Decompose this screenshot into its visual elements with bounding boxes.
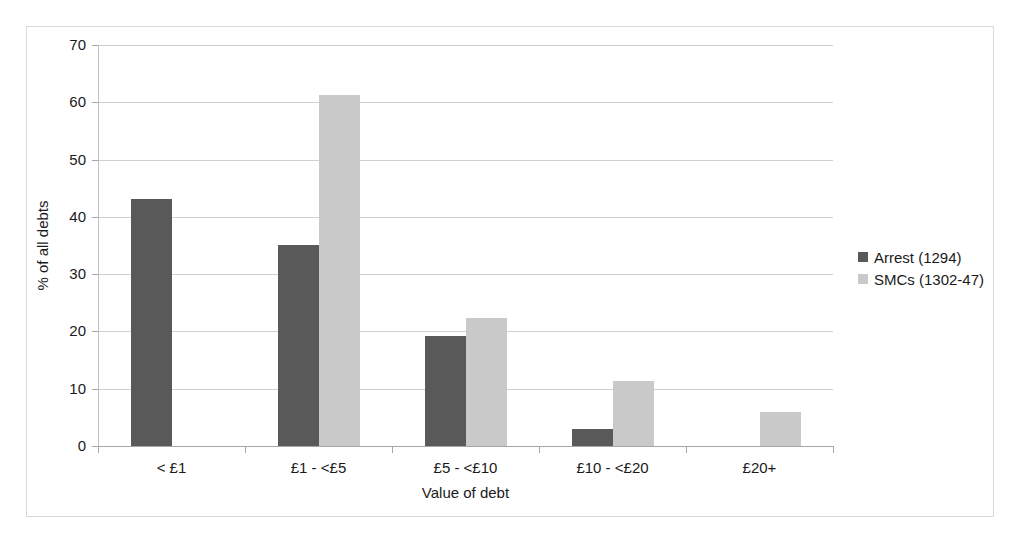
y-tick-mark — [92, 217, 98, 218]
x-axis-line — [98, 446, 834, 447]
y-tick-label: 60 — [50, 94, 86, 109]
legend: Arrest (1294)SMCs (1302-47) — [858, 246, 984, 290]
bar — [425, 336, 466, 446]
y-tick-label-wrap: 0 — [44, 438, 86, 453]
bar — [131, 199, 172, 446]
y-tick-mark — [92, 389, 98, 390]
legend-item: Arrest (1294) — [858, 246, 984, 268]
y-tick-mark — [92, 274, 98, 275]
y-tick-mark — [92, 102, 98, 103]
gridline — [98, 102, 833, 103]
gridline — [98, 160, 833, 161]
x-tick-mark — [833, 447, 834, 453]
y-tick-label: 30 — [50, 266, 86, 281]
bar — [613, 381, 654, 446]
legend-swatch-icon — [858, 274, 868, 284]
y-tick-label-wrap: 20 — [44, 323, 86, 338]
y-tick-mark — [92, 45, 98, 46]
bar — [760, 412, 801, 446]
plot-area — [98, 45, 833, 446]
bar — [319, 95, 360, 446]
x-tick-label: < £1 — [98, 459, 245, 476]
y-tick-label-wrap: 70 — [44, 37, 86, 52]
x-axis-title: Value of debt — [98, 484, 833, 501]
y-axis-title: % of all debts — [35, 186, 50, 306]
y-tick-label: 50 — [50, 152, 86, 167]
y-tick-label-wrap: 60 — [44, 94, 86, 109]
gridline — [98, 45, 833, 46]
x-tick-mark — [686, 447, 687, 453]
gridline — [98, 274, 833, 275]
gridline — [98, 217, 833, 218]
y-tick-mark — [92, 160, 98, 161]
chart-container: 010203040506070 % of all debts < £1£1 - … — [0, 0, 1010, 537]
y-tick-label: 20 — [50, 323, 86, 338]
x-tick-label: £20+ — [686, 459, 833, 476]
legend-swatch-icon — [858, 252, 868, 262]
x-tick-mark — [245, 447, 246, 453]
y-tick-label: 40 — [50, 209, 86, 224]
bar — [572, 429, 613, 446]
x-tick-mark — [539, 447, 540, 453]
y-tick-label-wrap: 50 — [44, 152, 86, 167]
x-tick-mark — [392, 447, 393, 453]
bar — [278, 245, 319, 446]
y-tick-label: 0 — [50, 438, 86, 453]
x-tick-mark — [98, 447, 99, 453]
x-tick-label: £5 - <£10 — [392, 459, 539, 476]
y-tick-label-wrap: 10 — [44, 381, 86, 396]
y-tick-mark — [92, 331, 98, 332]
y-tick-label: 70 — [50, 37, 86, 52]
legend-label: SMCs (1302-47) — [874, 272, 984, 287]
y-tick-label: 10 — [50, 381, 86, 396]
bar — [466, 318, 507, 446]
x-tick-label: £1 - <£5 — [245, 459, 392, 476]
y-axis-line — [98, 45, 99, 447]
x-tick-label: £10 - <£20 — [539, 459, 686, 476]
legend-item: SMCs (1302-47) — [858, 268, 984, 290]
legend-label: Arrest (1294) — [874, 250, 962, 265]
